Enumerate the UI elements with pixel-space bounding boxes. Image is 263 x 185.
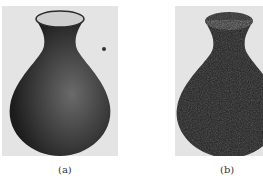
caption-b: (b) — [220, 164, 234, 175]
caption-a: (a) — [58, 164, 72, 175]
noisy-vase-image — [175, 6, 263, 156]
panel-b — [175, 6, 263, 156]
panel-a — [2, 6, 118, 156]
smooth-vase-image — [2, 6, 118, 156]
